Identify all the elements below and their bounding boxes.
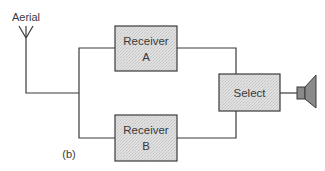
antenna-icon xyxy=(19,26,33,38)
splitter-bus-wire xyxy=(79,48,115,138)
receiver-a-label: Receiver xyxy=(123,35,169,47)
receiver-b-to-select-wire xyxy=(177,111,236,138)
figure-caption: (b) xyxy=(62,148,75,160)
receiver-b-label: Receiver xyxy=(123,124,169,136)
receiver-a-id: A xyxy=(142,51,150,63)
select-block: Select xyxy=(219,74,280,111)
receiver-b-id: B xyxy=(142,140,150,152)
receiver-a-block: Receiver A xyxy=(115,26,177,71)
receiver-a-to-select-wire xyxy=(177,48,236,74)
loudspeaker-icon xyxy=(297,75,316,108)
aerial-label: Aerial xyxy=(12,11,40,23)
select-label: Select xyxy=(234,87,267,99)
receiver-b-block: Receiver B xyxy=(115,115,177,161)
diversity-receiver-diagram: Aerial Receiver A Receiver B Select xyxy=(0,0,325,171)
aerial-feed-wire xyxy=(26,38,79,93)
